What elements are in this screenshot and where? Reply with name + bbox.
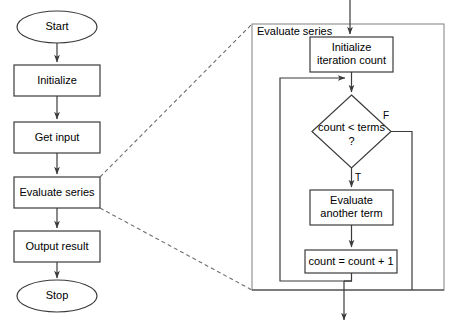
get-input-label: Get input — [35, 131, 80, 143]
start-label: Start — [45, 20, 68, 32]
node-increment-count: count = count + 1 — [305, 250, 397, 273]
node-stop: Stop — [17, 280, 97, 312]
node-evaluate-another-term: Evaluate another term — [310, 190, 393, 225]
dashed-connector-top — [100, 24, 252, 177]
flowchart-canvas: Start Initialize Get input Evaluate seri… — [0, 0, 452, 326]
evaluate-another-term-label-line2: another term — [320, 207, 382, 219]
node-get-input: Get input — [14, 122, 100, 153]
increment-count-label: count = count + 1 — [308, 255, 393, 267]
initialize-iteration-count-label-line1: Initialize — [332, 41, 372, 53]
evaluate-series-label: Evaluate series — [19, 186, 95, 198]
initialize-label: Initialize — [37, 74, 77, 86]
stop-label: Stop — [46, 289, 69, 301]
branch-label-true: T — [355, 172, 361, 183]
condition-label-line2: ? — [348, 135, 354, 147]
detail-panel-label: Evaluate series — [257, 25, 333, 37]
branch-label-false: F — [383, 110, 389, 121]
dashed-connector-bottom — [100, 208, 252, 290]
condition-label-line1: count < terms — [318, 121, 385, 133]
node-evaluate-series: Evaluate series — [14, 177, 100, 208]
node-initialize: Initialize — [14, 65, 100, 96]
node-start: Start — [17, 11, 97, 43]
node-output-result: Output result — [14, 231, 100, 262]
output-result-label: Output result — [26, 240, 89, 252]
flowchart-diagram: Start Initialize Get input Evaluate seri… — [0, 0, 452, 326]
initialize-iteration-count-label-line2: iteration count — [317, 54, 386, 66]
node-initialize-iteration-count: Initialize iteration count — [310, 37, 393, 72]
node-condition: count < terms ? — [312, 95, 391, 168]
evaluate-another-term-label-line1: Evaluate — [330, 194, 373, 206]
